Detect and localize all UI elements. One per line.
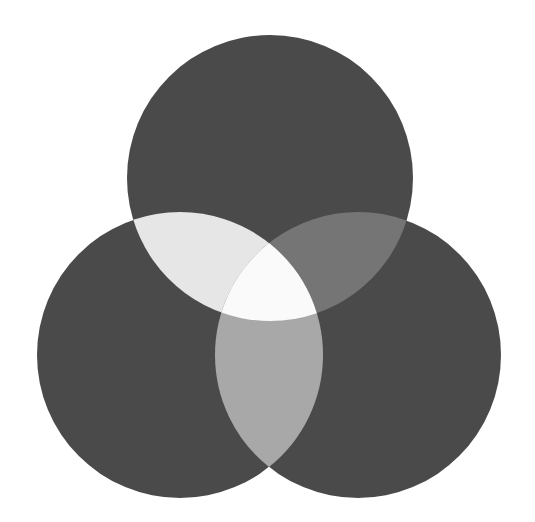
- venn-diagram-canvas: [0, 0, 535, 522]
- venn-diagram-svg: [0, 0, 535, 522]
